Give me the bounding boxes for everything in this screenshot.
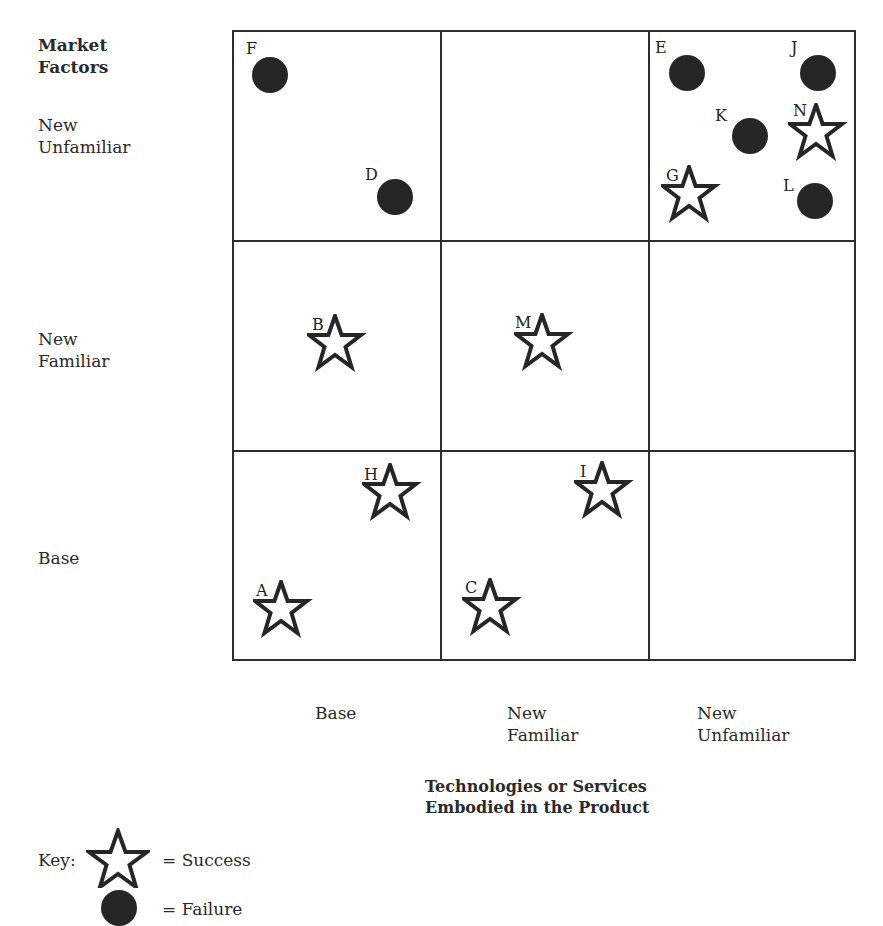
- grid-line-v1: [440, 32, 442, 659]
- point-label-e: E: [655, 40, 667, 56]
- grid-line-h1: [234, 240, 854, 242]
- y-label-new-unfamiliar: New Unfamiliar: [38, 114, 130, 158]
- x-label-base: Base: [315, 702, 356, 724]
- y-label-new-familiar: New Familiar: [38, 328, 109, 372]
- success-star-icon-i: [574, 461, 634, 519]
- success-star-icon-m: [514, 313, 574, 371]
- legend-success-star-icon: [86, 828, 150, 888]
- success-star-icon-h: [362, 463, 422, 521]
- point-label-l: L: [783, 178, 794, 194]
- failure-dot-icon-d: [377, 179, 413, 215]
- point-label-f: F: [246, 41, 257, 57]
- success-star-icon-g: [661, 165, 721, 223]
- legend-success-label: = Success: [162, 850, 251, 870]
- legend-failure-dot-icon: [101, 890, 137, 926]
- failure-dot-icon-e: [669, 55, 705, 91]
- failure-dot-icon-j: [800, 55, 836, 91]
- x-label-new-familiar: New Familiar: [507, 702, 578, 746]
- legend-failure-label: = Failure: [162, 899, 242, 919]
- y-axis-title: Market Factors: [38, 34, 108, 78]
- legend-key-label: Key:: [38, 850, 76, 870]
- x-label-new-unfamiliar: New Unfamiliar: [697, 702, 789, 746]
- failure-dot-icon-f: [252, 57, 288, 93]
- failure-dot-icon-k: [732, 118, 768, 154]
- point-label-k: K: [715, 108, 727, 124]
- point-label-j: J: [791, 40, 797, 56]
- success-star-icon-a: [253, 580, 313, 638]
- grid-line-h2: [234, 450, 854, 452]
- grid-line-v2: [648, 32, 650, 659]
- point-label-d: D: [365, 167, 378, 183]
- success-star-icon-c: [462, 578, 522, 636]
- y-label-base: Base: [38, 547, 79, 569]
- success-star-icon-n: [788, 103, 848, 161]
- x-axis-title: Technologies or Services Embodied in the…: [425, 776, 649, 818]
- success-star-icon-b: [307, 314, 367, 372]
- failure-dot-icon-l: [797, 183, 833, 219]
